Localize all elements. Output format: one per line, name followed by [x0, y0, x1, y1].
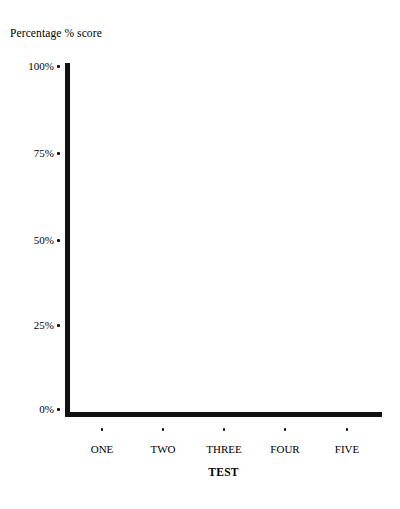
y-axis-tick-label: 0%	[0, 404, 54, 415]
x-axis-tick-dot-icon	[162, 428, 165, 431]
x-axis-tick-dot-icon	[284, 428, 287, 431]
x-axis-tick-dot-icon	[101, 428, 104, 431]
y-axis-tick-label: 25%	[0, 320, 54, 331]
y-axis-tick-dot-icon	[57, 152, 60, 155]
y-axis-title: Percentage % score	[10, 26, 102, 40]
x-axis-tick-label: FIVE	[302, 443, 392, 456]
x-axis-tick-dot-icon	[346, 428, 349, 431]
x-axis-title: TEST	[65, 465, 382, 479]
x-axis-line	[65, 412, 382, 417]
plot-area	[70, 63, 382, 412]
y-axis-tick-dot-icon	[57, 408, 60, 411]
y-axis-tick-dot-icon	[57, 65, 60, 68]
y-axis-tick-dot-icon	[57, 239, 60, 242]
y-axis-tick-label: 75%	[0, 148, 54, 159]
y-axis-tick-label: 50%	[0, 235, 54, 246]
y-axis-tick-label: 100%	[0, 61, 54, 72]
y-axis-tick-dot-icon	[57, 324, 60, 327]
chart-canvas: Percentage % score 100% 75% 50% 25% 0% O…	[0, 0, 400, 509]
x-axis-tick-dot-icon	[223, 428, 226, 431]
